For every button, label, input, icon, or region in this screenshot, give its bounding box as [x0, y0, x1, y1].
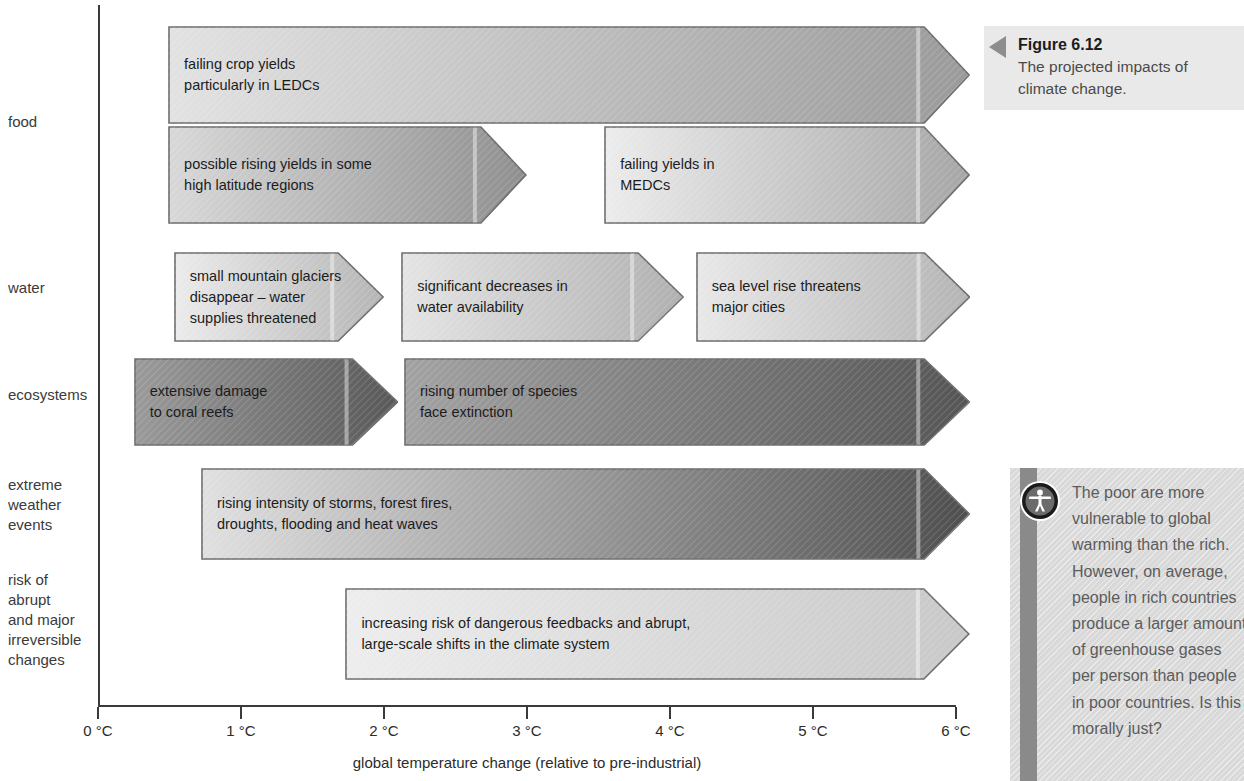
x-tick-5: [812, 707, 814, 719]
impact-bar: extensive damage to coral reefs: [134, 358, 399, 446]
x-tick-2: [383, 707, 385, 719]
impact-bar: sea level rise threatens major cities: [696, 252, 971, 342]
callout-text: The poor are more vulnerable to global w…: [1072, 480, 1244, 742]
x-tick-1: [240, 707, 242, 719]
discussion-callout: The poor are more vulnerable to global w…: [1010, 468, 1244, 781]
row-label-ecosystems: ecosystems: [8, 385, 87, 405]
x-tick-label-4: 4 °C: [655, 722, 684, 739]
row-label-risk: risk of abrupt and major irreversible ch…: [8, 570, 81, 670]
figure-number: Figure 6.12: [1018, 34, 1238, 56]
climate-impacts-chart: 0 °C1 °C2 °C3 °C4 °C5 °C6 °C failing cro…: [0, 0, 980, 781]
left-triangle-marker: [989, 36, 1006, 58]
figure-caption: Figure 6.12 The projected impacts of cli…: [984, 26, 1244, 110]
impact-bar: increasing risk of dangerous feedbacks a…: [345, 588, 970, 680]
impact-bar: small mountain glaciers disappear – wate…: [174, 252, 384, 342]
x-tick-0: [97, 707, 99, 719]
row-label-food: food: [8, 112, 37, 132]
row-label-extreme: extreme weather events: [8, 475, 62, 535]
impact-bar: rising number of species face extinction: [404, 358, 970, 446]
row-label-water: water: [8, 278, 45, 298]
figure-caption-text: The projected impacts of climate change.: [1018, 56, 1238, 100]
impact-bar: failing crop yields particularly in LEDC…: [168, 26, 970, 124]
x-tick-4: [669, 707, 671, 719]
x-tick-label-5: 5 °C: [798, 722, 827, 739]
x-tick-3: [526, 707, 528, 719]
impact-bar: significant decreases in water availabil…: [401, 252, 684, 342]
y-axis-line: [98, 5, 100, 705]
x-tick-6: [955, 707, 957, 719]
x-axis-title: global temperature change (relative to p…: [353, 754, 702, 771]
impact-bar: possible rising yields in some high lati…: [168, 126, 527, 224]
impact-bar: rising intensity of storms, forest fires…: [201, 468, 970, 560]
x-tick-label-1: 1 °C: [226, 722, 255, 739]
x-tick-label-0: 0 °C: [83, 722, 112, 739]
figure-page: 0 °C1 °C2 °C3 °C4 °C5 °C6 °C failing cro…: [0, 0, 1244, 781]
x-tick-label-3: 3 °C: [512, 722, 541, 739]
x-tick-label-6: 6 °C: [941, 722, 970, 739]
person-in-circle-icon: [1018, 479, 1062, 523]
x-tick-label-2: 2 °C: [369, 722, 398, 739]
impact-bar: failing yields in MEDCs: [604, 126, 970, 224]
